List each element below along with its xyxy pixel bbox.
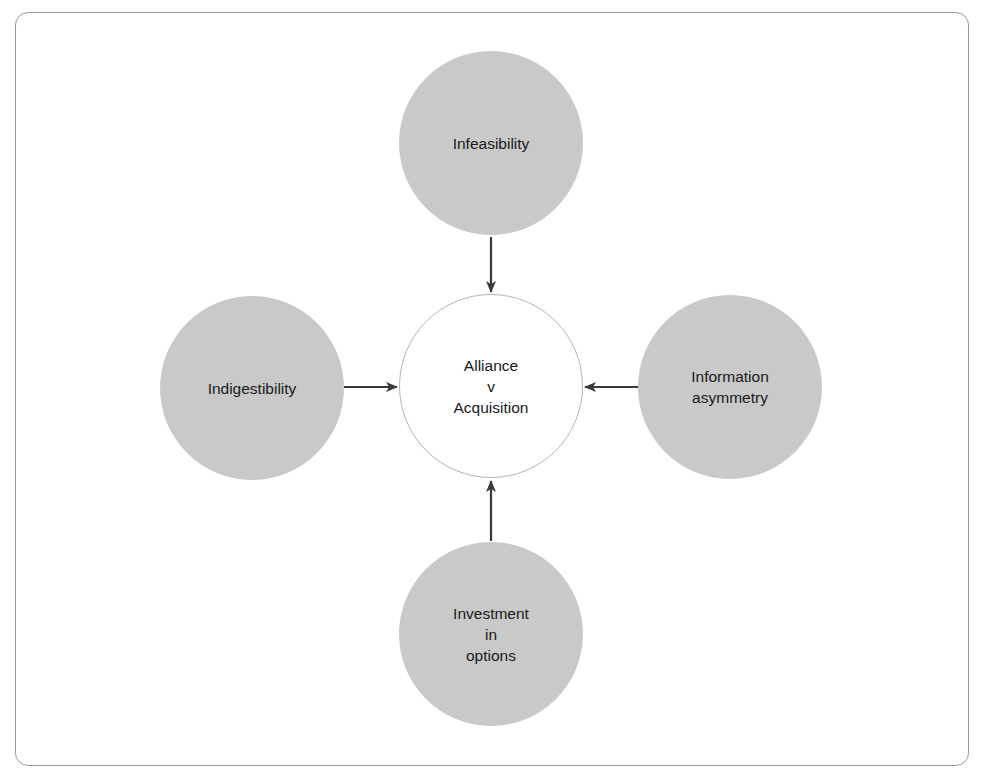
- center-node-alliance-v-acquisition: Alliance v Acquisition: [399, 294, 583, 478]
- factor-label-line-2: in: [485, 624, 497, 645]
- factor-label-line-3: options: [466, 645, 516, 666]
- factor-node-infeasibility: Infeasibility: [399, 51, 583, 235]
- center-label-line-3: Acquisition: [454, 397, 529, 418]
- center-label-line-1: Alliance: [464, 355, 518, 376]
- center-label-line-2: v: [487, 376, 495, 397]
- factor-node-indigestibility: Indigestibility: [160, 296, 344, 480]
- factor-label-line-1: Investment: [453, 603, 529, 624]
- factor-label: Indigestibility: [208, 378, 297, 399]
- factor-label-line-2: asymmetry: [692, 387, 768, 408]
- factor-label-line-1: Information: [691, 366, 769, 387]
- factor-node-investment-in-options: Investment in options: [399, 542, 583, 726]
- factor-label: Infeasibility: [453, 133, 530, 154]
- factor-node-information-asymmetry: Information asymmetry: [638, 295, 822, 479]
